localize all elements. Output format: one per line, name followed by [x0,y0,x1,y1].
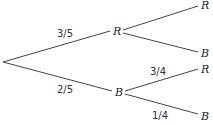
node-level1-B: B [114,86,123,99]
edge-R-to-R [123,6,198,30]
probability-tree: 3/5 2/5 R B R B 3/4 1/4 R B [0,0,213,125]
prob-B-R: 3/4 [150,66,166,77]
node-R-R: R [200,0,209,12]
node-B-B: B [200,110,209,123]
prob-B-B: 1/4 [152,110,168,121]
prob-root-R: 3/5 [57,28,73,39]
prob-root-B: 2/5 [57,84,73,95]
node-level1-R: R [112,25,121,38]
edge-R-to-B [123,33,198,52]
node-B-R: R [200,63,209,76]
node-R-B: B [200,47,209,60]
